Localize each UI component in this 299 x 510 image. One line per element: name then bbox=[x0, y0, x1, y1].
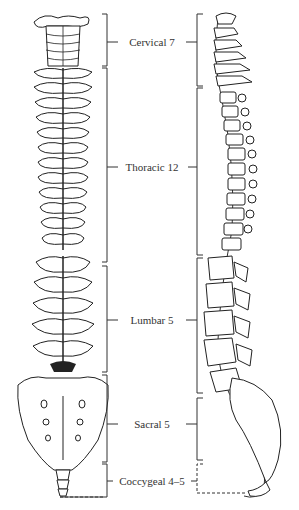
label-cervical: Cervical 7 bbox=[127, 36, 177, 48]
lumbar-vertebrae bbox=[32, 256, 94, 372]
label-coccygeal: Coccygeal 4–5 bbox=[117, 475, 187, 487]
label-lumbar: Lumbar 5 bbox=[128, 314, 175, 326]
thoracic-vertebrae bbox=[34, 68, 92, 250]
lateral-view bbox=[204, 13, 281, 497]
sacrum bbox=[18, 377, 109, 470]
label-thoracic: Thoracic 12 bbox=[124, 161, 181, 173]
posterior-view bbox=[18, 16, 109, 496]
right-brackets bbox=[186, 14, 245, 493]
lateral-thoracic bbox=[220, 92, 257, 250]
label-sacral: Sacral 5 bbox=[132, 418, 172, 430]
lateral-lumbar bbox=[204, 256, 252, 392]
coccyx bbox=[56, 470, 70, 496]
spine-diagram bbox=[0, 0, 299, 510]
lateral-sacrum-coccyx bbox=[230, 378, 281, 496]
